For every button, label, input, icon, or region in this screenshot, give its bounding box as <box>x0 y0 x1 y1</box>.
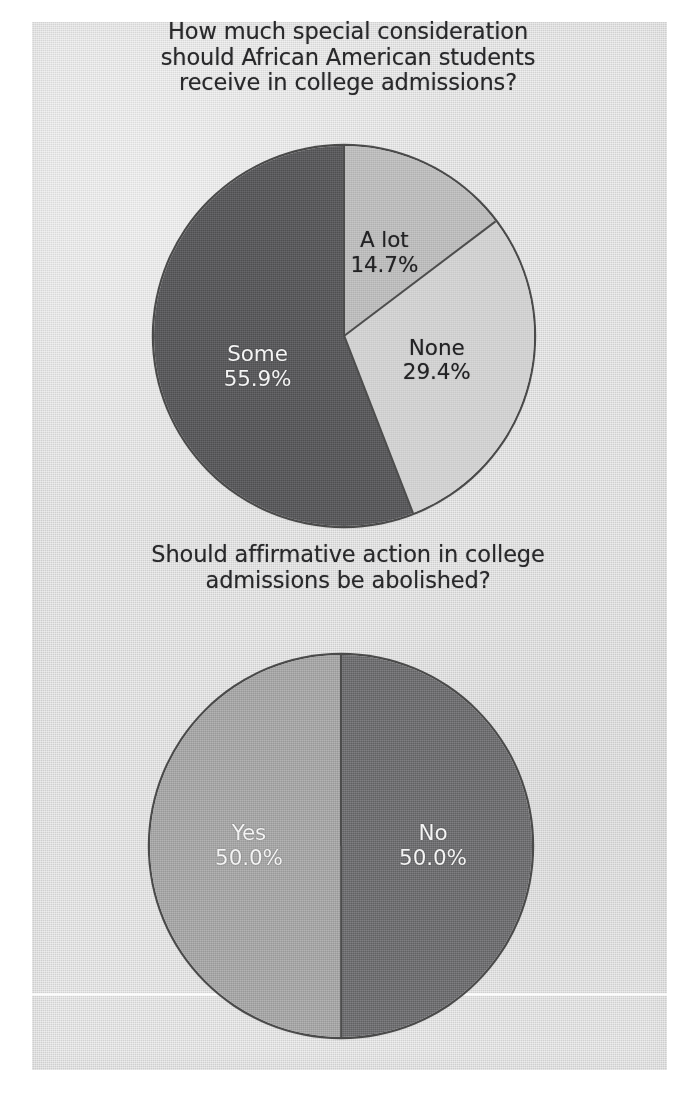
pie-chart-1-disc <box>154 146 534 526</box>
chart-2-title: Should affirmative action in college adm… <box>0 542 696 593</box>
pie-chart-1: A lot 14.7% None 29.4% Some 55.9% <box>154 146 534 526</box>
pie-chart-2-disc <box>150 655 532 1037</box>
pie-chart-2: Yes 50.0% No 50.0% <box>150 655 532 1037</box>
chart-1-title: How much special consideration should Af… <box>0 19 696 96</box>
